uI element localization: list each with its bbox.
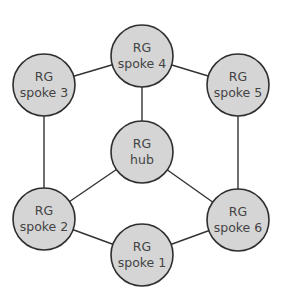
node-label-line2: spoke 3 — [20, 85, 69, 100]
node-spoke-3: RG spoke 3 — [13, 54, 75, 116]
hub-spoke-diagram: RG spoke 4 RG spoke 3 RG spoke 5 RG hub … — [0, 0, 282, 303]
node-label-line1: RG — [133, 136, 151, 151]
node-spoke-1: RG spoke 1 — [111, 224, 173, 286]
node-label-line2: hub — [130, 152, 154, 167]
node-label-line1: RG — [35, 69, 53, 84]
node-spoke-6: RG spoke 6 — [207, 189, 269, 251]
node-label-line2: spoke 1 — [118, 255, 167, 270]
node-label-line2: spoke 2 — [20, 219, 69, 234]
node-spoke-2: RG spoke 2 — [13, 188, 75, 250]
node-label-line1: RG — [133, 239, 151, 254]
node-label-line1: RG — [229, 204, 247, 219]
node-label-line1: RG — [229, 69, 247, 84]
node-label-line2: spoke 4 — [118, 56, 167, 71]
node-label-line2: spoke 6 — [214, 220, 263, 235]
node-label-line1: RG — [133, 40, 151, 55]
node-spoke-5: RG spoke 5 — [207, 54, 269, 116]
node-label-line2: spoke 5 — [214, 85, 263, 100]
node-label-line1: RG — [35, 203, 53, 218]
node-hub: RG hub — [111, 121, 173, 183]
node-spoke-4: RG spoke 4 — [111, 25, 173, 87]
